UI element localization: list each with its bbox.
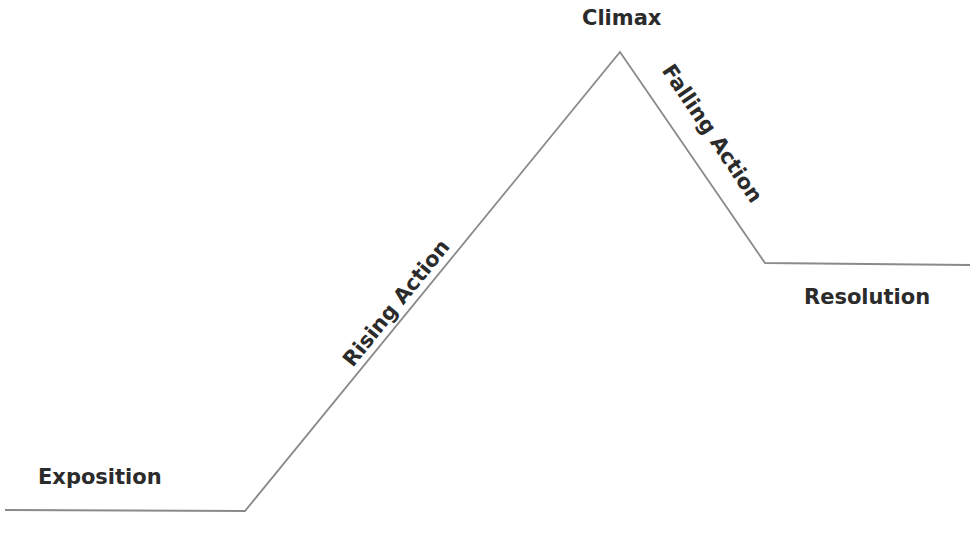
plot-line [0, 0, 977, 537]
plot-path [5, 52, 970, 511]
label-exposition: Exposition [38, 465, 162, 489]
label-resolution: Resolution [804, 285, 930, 309]
label-climax: Climax [582, 6, 661, 30]
